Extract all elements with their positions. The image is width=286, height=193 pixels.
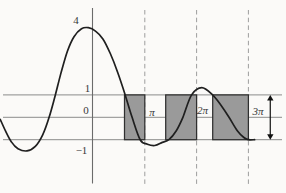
y-tick-label-1: 1 [85, 82, 91, 94]
shaded-rect [166, 95, 197, 140]
figure-container: 410−1 π2π3π [0, 0, 286, 193]
arrow-head-down-icon [267, 134, 273, 140]
y-tick-label-4: 4 [73, 14, 79, 26]
x-tick-label-2pi: 2π [197, 104, 209, 116]
arrow-head-up-icon [267, 95, 273, 101]
x-tick-label-3pi: 3π [251, 105, 264, 117]
y-tick-label--1: −1 [76, 144, 88, 156]
function-graph: 410−1 π2π3π [0, 0, 286, 193]
y-tick-label-0: 0 [83, 104, 89, 116]
x-tick-label-1pi: π [149, 106, 155, 118]
